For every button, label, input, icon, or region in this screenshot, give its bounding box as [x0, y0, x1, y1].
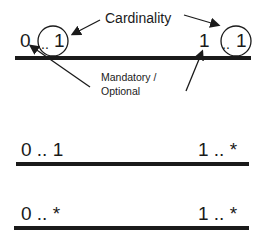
row3-left-label: 0 .. *	[21, 204, 60, 223]
row1-left-min: 0	[20, 31, 31, 50]
row1-left-sep: ..	[41, 37, 49, 51]
mandatory-optional-label: Mandatory / Optional	[101, 70, 156, 98]
cardinality-arrow-left	[73, 20, 100, 34]
row3-right-label: 1 .. *	[198, 204, 237, 223]
mandatory-arrow-left	[31, 46, 90, 87]
row2-left-label: 0 .. 1	[21, 140, 63, 159]
row2-right-label: 1 .. *	[198, 140, 237, 159]
row1-right-sep: ..	[222, 37, 230, 51]
cardinality-arrow-right	[184, 15, 218, 25]
row1-right-min: 1	[199, 31, 210, 50]
relationship-line-2	[16, 162, 249, 166]
relationship-line-1	[15, 56, 251, 60]
cardinality-label: Cardinality	[105, 11, 171, 25]
row1-right-max: 1	[236, 31, 247, 50]
relationship-line-3	[14, 226, 249, 230]
row1-left-max: 1	[54, 31, 65, 50]
